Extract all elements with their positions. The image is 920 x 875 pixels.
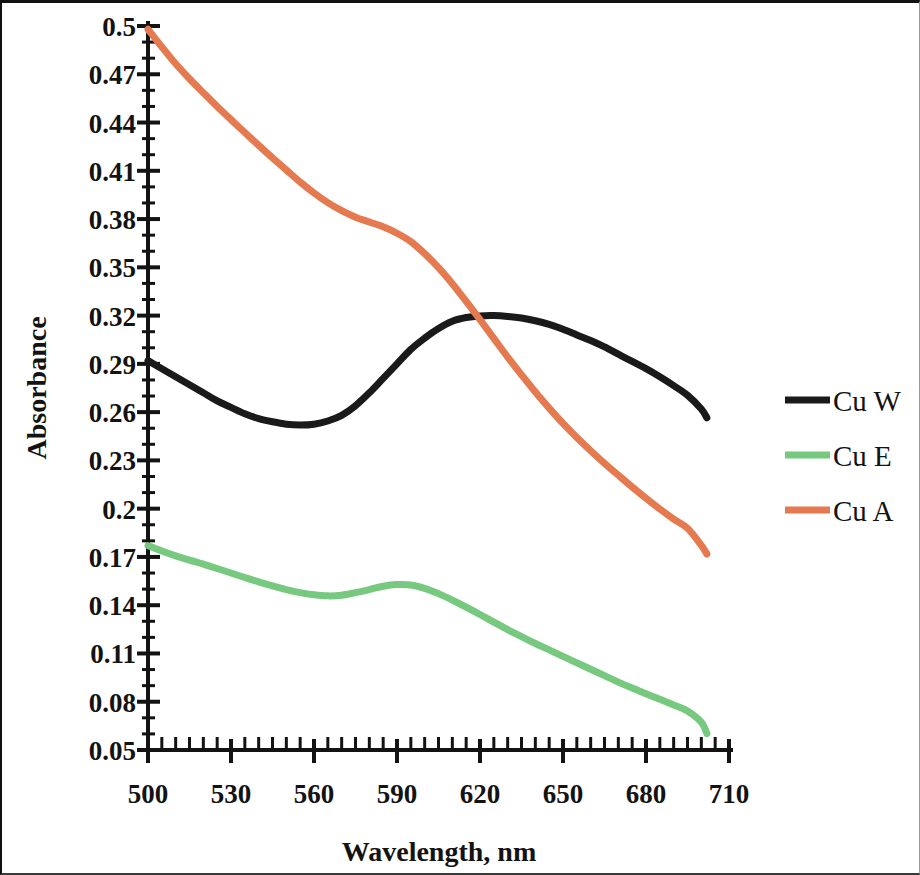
y-tick-label: 0.32 <box>89 302 136 332</box>
y-tick-label: 0.05 <box>89 736 136 766</box>
x-tick-label: 680 <box>626 779 667 809</box>
y-tick-label: 0.29 <box>89 350 136 380</box>
x-tick-label: 590 <box>377 779 418 809</box>
x-tick-label: 500 <box>128 779 169 809</box>
series-lines <box>148 29 707 733</box>
x-tick-label: 650 <box>543 779 584 809</box>
series-line-cu-w <box>148 316 707 425</box>
x-tick-label: 710 <box>709 779 750 809</box>
x-axis-tick-labels: 500530560590620650680710 <box>128 779 750 809</box>
y-tick-label: 0.11 <box>90 639 136 669</box>
y-tick-label: 0.38 <box>89 205 136 235</box>
x-tick-label: 560 <box>294 779 335 809</box>
y-tick-label: 0.44 <box>89 109 136 139</box>
x-tick-label: 620 <box>460 779 501 809</box>
legend-label-cu-e[interactable]: Cu E <box>833 440 892 472</box>
y-tick-label: 0.23 <box>89 446 136 476</box>
x-tick-label: 530 <box>211 779 252 809</box>
y-tick-label: 0.41 <box>89 157 136 187</box>
y-tick-label: 0.2 <box>102 495 136 525</box>
y-tick-label: 0.17 <box>89 543 136 573</box>
chart-legend: Cu WCu ECu A <box>785 385 902 527</box>
series-line-cu-e <box>148 546 707 734</box>
series-line-cu-a <box>148 29 707 554</box>
axis-ticks <box>137 26 729 763</box>
absorbance-spectra-chart: 0.050.080.110.140.170.20.230.260.290.320… <box>2 3 920 875</box>
y-tick-label: 0.08 <box>89 688 136 718</box>
x-axis-title: Wavelength, nm <box>342 836 536 867</box>
y-tick-label: 0.26 <box>89 398 136 428</box>
y-axis-tick-labels: 0.050.080.110.140.170.20.230.260.290.320… <box>89 12 136 766</box>
legend-label-cu-w[interactable]: Cu W <box>833 385 902 417</box>
y-tick-label: 0.35 <box>89 253 136 283</box>
y-tick-label: 0.5 <box>102 12 136 42</box>
y-tick-label: 0.47 <box>89 60 136 90</box>
y-tick-label: 0.14 <box>89 591 136 621</box>
legend-label-cu-a[interactable]: Cu A <box>833 495 893 527</box>
y-axis-title: Absorbance <box>21 316 52 459</box>
figure-panel: 0.050.080.110.140.170.20.230.260.290.320… <box>0 0 920 875</box>
